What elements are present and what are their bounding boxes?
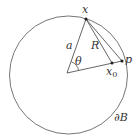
label-a: a	[66, 39, 73, 52]
label-theta: θ	[75, 55, 82, 68]
label-boundary: ∂B	[114, 111, 128, 124]
point-p	[120, 59, 123, 62]
diagram-canvas: x p x0 a R θ ∂B	[0, 0, 138, 139]
label-p: p	[125, 53, 132, 66]
point-x	[84, 17, 87, 20]
label-x: x	[82, 3, 89, 16]
label-R: R	[90, 39, 99, 52]
label-x0-subscript: 0	[112, 70, 117, 79]
label-x0: x0	[106, 65, 117, 79]
